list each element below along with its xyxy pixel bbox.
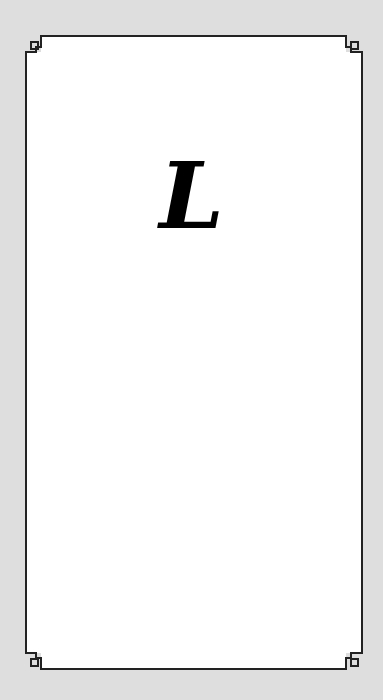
corner-tl-square-icon [30,41,39,50]
border-left [25,52,27,653]
card-panel-inner [41,36,346,669]
border-bottom [41,668,346,670]
border-top [41,35,346,37]
corner-tr-square-icon [350,41,359,50]
card-letter: L [0,150,383,242]
border-right [361,52,363,653]
corner-br-square-icon [350,658,359,667]
corner-bl-square-icon [30,658,39,667]
